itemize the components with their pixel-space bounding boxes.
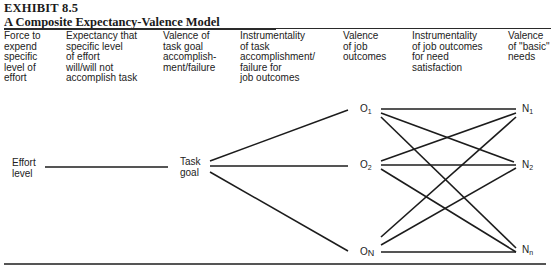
edge-task-o1 (210, 110, 348, 161)
node-o1-sub: 1 (368, 108, 372, 115)
node-task-line2: goal (180, 168, 201, 179)
node-n2-sub: 2 (529, 164, 533, 171)
node-nn: Nn (522, 245, 533, 259)
node-o2-base: O (360, 159, 368, 170)
node-o2-sub: 2 (368, 164, 372, 171)
edge-on-n1 (381, 117, 516, 237)
node-on-base: O (360, 246, 368, 257)
node-o1: O1 (360, 104, 372, 118)
node-on-sub: N (368, 248, 375, 258)
node-effort-line1: Effort (12, 158, 36, 169)
node-on: ON (360, 247, 374, 259)
node-task-line1: Task (180, 157, 201, 168)
model-diagram (0, 0, 555, 266)
node-o1-base: O (360, 103, 368, 114)
node-task-goal: Task goal (180, 157, 201, 178)
node-n1: N1 (522, 104, 533, 118)
node-n1-sub: 1 (529, 108, 533, 115)
node-n2: N2 (522, 160, 533, 174)
node-nn-sub: n (529, 249, 533, 256)
node-effort-level: Effort level (12, 158, 36, 179)
node-effort-line2: level (12, 169, 36, 180)
node-o2: O2 (360, 160, 372, 174)
edge-task-on (210, 172, 348, 251)
edge-on-n2 (381, 168, 516, 245)
